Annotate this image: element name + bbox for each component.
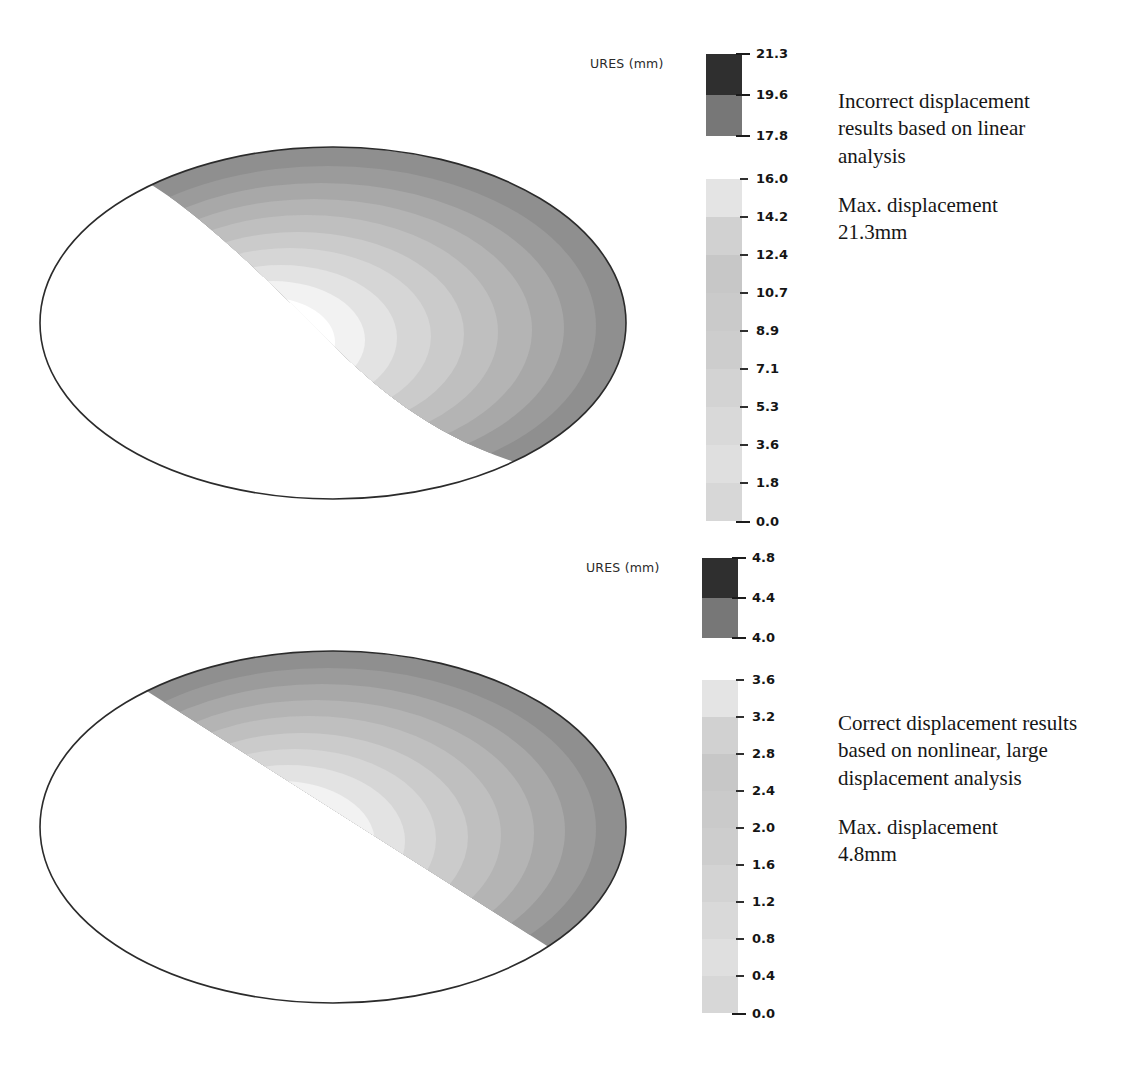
legend-tick-1-2 — [736, 901, 744, 903]
legend-label-0-0: 0.0 — [752, 1007, 775, 1020]
legend-tick-8-9 — [740, 330, 748, 332]
legend-bar-wrap-top: 21.3 19.6 17.8 16.0 14.2 12.4 10.7 8.9 7… — [706, 44, 810, 544]
legend-band-03 — [706, 407, 742, 445]
legend-label-2-4: 2.4 — [752, 784, 775, 797]
legend-label-2-0: 2.0 — [752, 821, 775, 834]
legend-tick-19-6 — [736, 94, 750, 96]
legend-tick-2-4 — [736, 790, 744, 792]
legend-tick-16-0 — [740, 178, 748, 180]
legend-label-4-4: 4.4 — [752, 591, 775, 604]
legend-label-3-2: 3.2 — [752, 710, 775, 723]
legend-tick-14-2 — [740, 216, 748, 218]
legend-band-11 — [706, 95, 742, 136]
legend-tick-3-6 — [740, 444, 748, 446]
legend-tick-1-8 — [740, 482, 748, 484]
legend-title-top: URES (mm) — [590, 56, 702, 71]
annotation-top: Incorrect displacement results based on … — [838, 88, 1083, 246]
annotation-bottom-description: Correct displacement results based on no… — [838, 710, 1083, 792]
legend-band-12 — [702, 558, 738, 598]
legend-tick-4-8 — [732, 557, 746, 559]
legend-band-03 — [702, 902, 738, 939]
annotation-bottom-max-value: 4.8mm — [838, 841, 1083, 868]
legend-tick-0-4 — [736, 975, 744, 977]
legend-label-2-8: 2.8 — [752, 747, 775, 760]
legend-band-05 — [702, 828, 738, 865]
legend-label-12-4: 12.4 — [756, 248, 788, 261]
legend-band-01 — [706, 483, 742, 521]
legend-label-3-6: 3.6 — [752, 673, 775, 686]
legend-label-0-0: 0.0 — [756, 515, 779, 528]
annotation-bottom-spacer — [838, 792, 1083, 814]
legend-colorbar-bottom — [702, 548, 738, 1038]
legend-label-21-3: 21.3 — [756, 47, 788, 60]
legend-band-09 — [706, 179, 742, 217]
legend-tick-4-0 — [732, 637, 746, 639]
legend-label-0-4: 0.4 — [752, 969, 775, 982]
legend-title-bottom: URES (mm) — [586, 560, 698, 575]
nonlinear-analysis-contour-plot — [28, 612, 638, 1042]
contour-svg-top — [28, 108, 638, 538]
legend-band-07 — [706, 255, 742, 293]
annotation-bottom-max-label: Max. displacement — [838, 814, 1083, 841]
legend-tick-4-4 — [732, 597, 746, 599]
legend-tick-2-0 — [736, 827, 744, 829]
legend-tick-3-2 — [736, 716, 744, 718]
linear-analysis-contour-plot — [28, 108, 638, 538]
legend-label-0-8: 0.8 — [752, 932, 775, 945]
legend-band-06 — [702, 791, 738, 828]
legend-band-04 — [706, 369, 742, 407]
legend-label-17-8: 17.8 — [756, 129, 788, 142]
legend-band-02 — [706, 445, 742, 483]
legend-label-1-2: 1.2 — [752, 895, 775, 908]
legend-tick-0-0 — [732, 1013, 746, 1015]
legend-label-10-7: 10.7 — [756, 286, 788, 299]
legend-band-08 — [702, 717, 738, 754]
legend-band-02 — [702, 939, 738, 976]
legend-tick-7-1 — [740, 368, 748, 370]
legend-tick-17-8 — [736, 135, 750, 137]
legend-colorbar-top — [706, 44, 742, 544]
legend-tick-3-6 — [736, 679, 744, 681]
legend-label-14-2: 14.2 — [756, 210, 788, 223]
legend-label-1-6: 1.6 — [752, 858, 775, 871]
legend-label-19-6: 19.6 — [756, 88, 788, 101]
legend-label-5-3: 5.3 — [756, 400, 779, 413]
annotation-bottom: Correct displacement results based on no… — [838, 710, 1083, 868]
legend-tick-0-0 — [736, 521, 750, 523]
legend-tick-0-8 — [736, 938, 744, 940]
legend-tick-1-6 — [736, 864, 744, 866]
legend-tick-10-7 — [740, 292, 748, 294]
legend-top: URES (mm) — [590, 44, 810, 544]
legend-band-12 — [706, 54, 742, 95]
legend-tick-2-8 — [736, 753, 744, 755]
legend-label-3-6: 3.6 — [756, 438, 779, 451]
legend-tick-21-3 — [736, 53, 750, 55]
legend-band-08 — [706, 217, 742, 255]
legend-label-4-8: 4.8 — [752, 551, 775, 564]
legend-band-09 — [702, 680, 738, 717]
legend-band-11 — [702, 598, 738, 638]
annotation-top-description: Incorrect displacement results based on … — [838, 88, 1083, 170]
legend-band-01 — [702, 976, 738, 1013]
legend-label-16-0: 16.0 — [756, 172, 788, 185]
contour-svg-bottom — [28, 612, 638, 1042]
legend-bar-wrap-bottom: 4.8 4.4 4.0 3.6 3.2 2.8 2.4 2.0 1.6 1.2 … — [702, 548, 806, 1038]
legend-label-1-8: 1.8 — [756, 476, 779, 489]
legend-label-4-0: 4.0 — [752, 631, 775, 644]
legend-tick-5-3 — [740, 406, 748, 408]
legend-bottom: URES (mm) 4.8 4.4 4.0 3.6 — [586, 548, 806, 1038]
annotation-top-spacer — [838, 170, 1083, 192]
legend-label-7-1: 7.1 — [756, 362, 779, 375]
legend-band-04 — [702, 865, 738, 902]
legend-band-07 — [702, 754, 738, 791]
legend-label-8-9: 8.9 — [756, 324, 779, 337]
legend-band-06 — [706, 293, 742, 331]
legend-band-05 — [706, 331, 742, 369]
legend-tick-12-4 — [740, 254, 748, 256]
annotation-top-max-value: 21.3mm — [838, 219, 1083, 246]
annotation-top-max-label: Max. displacement — [838, 192, 1083, 219]
